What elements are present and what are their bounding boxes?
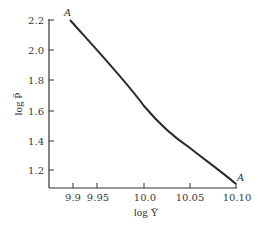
point-label-start: A: [63, 6, 71, 18]
point-label-end: A: [236, 171, 244, 183]
svg-text:10.05: 10.05: [176, 192, 205, 203]
y-axis-label: log P̄: [12, 93, 24, 116]
svg-text:1.4: 1.4: [28, 136, 44, 147]
svg-text:2.0: 2.0: [28, 45, 44, 56]
y-tick-labels: 2.2 2.0 1.8 1.6 1.4 1.2: [28, 15, 44, 176]
svg-text:1.2: 1.2: [28, 165, 44, 176]
svg-text:2.2: 2.2: [28, 15, 44, 26]
chart: 2.2 2.0 1.8 1.6 1.4 1.2 9.9 9.95 10.0 10…: [0, 0, 261, 225]
svg-text:1.8: 1.8: [28, 75, 44, 86]
svg-text:10.0: 10.0: [134, 192, 156, 203]
series-line: [70, 20, 236, 184]
x-tick-labels: 9.9 9.95 10.0 10.05 10.10: [65, 192, 251, 203]
svg-text:9.9: 9.9: [65, 192, 81, 203]
y-ticks: [49, 20, 54, 170]
svg-text:1.6: 1.6: [28, 106, 44, 117]
svg-text:10.10: 10.10: [223, 192, 252, 203]
x-axis-label: log Ȳ: [134, 206, 159, 218]
x-ticks: [73, 183, 236, 188]
svg-text:9.95: 9.95: [87, 192, 109, 203]
